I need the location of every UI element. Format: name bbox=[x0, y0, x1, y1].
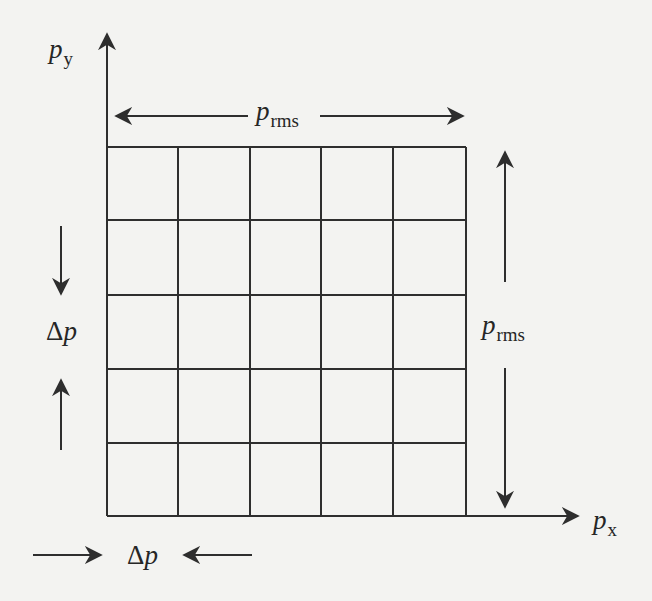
top-prms-label: prms bbox=[256, 98, 299, 125]
left-delta-p-label: Δp bbox=[46, 318, 77, 345]
y-axis-symbol: p bbox=[49, 34, 63, 64]
x-axis-symbol: p bbox=[593, 505, 607, 535]
momentum-grid-diagram bbox=[0, 0, 652, 601]
bottom-delta-p-label: Δp bbox=[127, 542, 158, 569]
left-p-symbol: p bbox=[63, 316, 77, 346]
cell-grid bbox=[107, 147, 466, 516]
x-axis-label: px bbox=[593, 507, 617, 534]
right-prms-label: prms bbox=[482, 312, 525, 339]
top-prms-symbol: p bbox=[256, 96, 270, 126]
right-prms-subscript: rms bbox=[497, 324, 526, 345]
right-prms-symbol: p bbox=[482, 310, 496, 340]
y-axis-label: py bbox=[49, 36, 73, 63]
y-axis-subscript: y bbox=[64, 48, 74, 69]
left-delta-symbol: Δ bbox=[46, 316, 63, 346]
bottom-delta-symbol: Δ bbox=[127, 540, 144, 570]
x-axis-subscript: x bbox=[608, 519, 618, 540]
bottom-p-symbol: p bbox=[144, 540, 158, 570]
top-prms-subscript: rms bbox=[271, 110, 300, 131]
